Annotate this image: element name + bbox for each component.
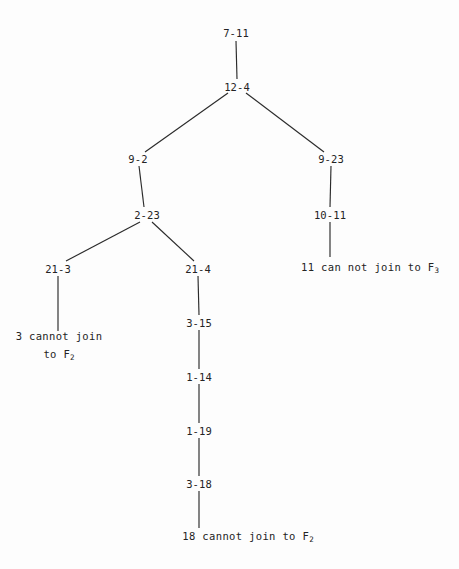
edges-group: [58, 41, 331, 528]
tree-node-1-19: 1-19: [186, 425, 212, 437]
tree-node-10-11: 10-11: [314, 209, 346, 221]
tree-edge: [236, 41, 237, 79]
tree-diagram: 7-1112-49-29-232-2310-1121-321-43-151-14…: [0, 0, 459, 569]
leaf-subscript-1: 3: [434, 266, 439, 275]
leaf-line-1: 3 cannot join: [16, 330, 103, 342]
tree-node-1-14: 1-14: [186, 371, 212, 383]
tree-node-12-4: 12-4: [224, 81, 250, 93]
tree-leaf-leaf-right: 11 can not join to F3: [301, 258, 439, 280]
leaf-line-2-text: to F: [43, 348, 70, 360]
tree-node-2-23: 2-23: [134, 209, 160, 221]
tree-node-3-18: 3-18: [186, 478, 212, 490]
tree-edge: [246, 93, 324, 152]
tree-edge: [152, 222, 194, 261]
tree-node-21-3: 21-3: [45, 263, 71, 275]
tree-leaf-leaf-left: 3 cannot jointo F2: [16, 327, 103, 367]
tree-edge: [139, 166, 144, 207]
tree-edge: [330, 166, 331, 207]
tree-edge: [198, 276, 199, 315]
leaf-line-1: 11 can not join to F: [301, 261, 434, 273]
leaf-subscript-1: 2: [309, 535, 314, 544]
tree-node-7-11: 7-11: [223, 27, 249, 39]
tree-edge: [145, 93, 228, 152]
tree-node-3-15: 3-15: [186, 317, 212, 329]
tree-leaf-leaf-bottom: 18 cannot join to F2: [182, 527, 313, 549]
tree-node-9-23: 9-23: [318, 153, 344, 165]
leaf-line-2: to F2: [16, 345, 103, 367]
tree-node-21-4: 21-4: [185, 263, 211, 275]
leaf-subscript-2: 2: [70, 353, 75, 362]
tree-edge: [66, 222, 140, 261]
tree-node-9-2: 9-2: [128, 153, 147, 165]
leaf-line-1: 18 cannot join to F: [182, 530, 309, 542]
